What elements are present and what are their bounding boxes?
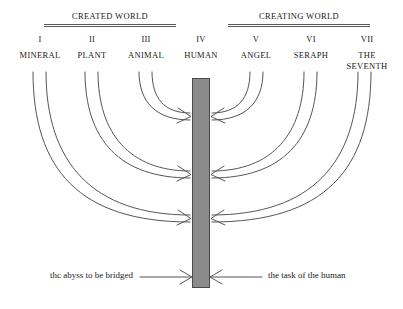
arrowhead-seraph <box>211 166 225 181</box>
arc-plant-inner <box>98 72 190 171</box>
arrowhead-animal <box>177 108 191 123</box>
arrowhead-plant <box>177 166 191 181</box>
arc-angel-inner <box>212 72 250 113</box>
arrowhead-seventh <box>211 210 225 225</box>
arrowhead-angel <box>211 108 225 123</box>
arc-plant-outer <box>85 72 190 178</box>
abyss-diagram: CREATED WORLD CREATING WORLD I MINERAL I… <box>0 0 403 309</box>
caption-left: thc abyss to be bridged <box>50 270 133 280</box>
abyss-bar <box>192 78 210 288</box>
arrowhead-mineral <box>177 210 191 225</box>
arc-seraph-inner <box>212 72 304 171</box>
arc-mineral-inner <box>46 72 190 215</box>
caption-right: the task of the human <box>268 270 345 280</box>
arc-animal-inner <box>152 72 190 113</box>
arc-seventh-inner <box>212 72 358 215</box>
arc-seraph-outer <box>212 72 317 178</box>
